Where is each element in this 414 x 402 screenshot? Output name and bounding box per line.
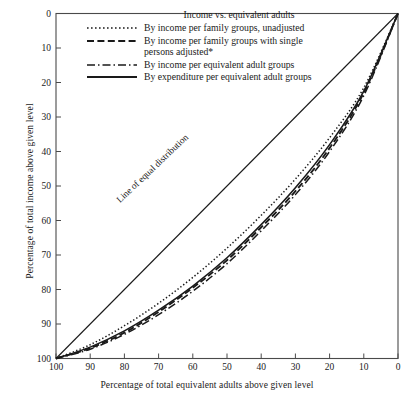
y-tick-label: 90 — [20, 319, 51, 329]
y-tick-label: 30 — [20, 112, 51, 122]
x-axis-ticks — [56, 354, 398, 359]
y-axis-ticks — [56, 14, 61, 359]
x-tick-label: 40 — [256, 362, 266, 372]
x-axis-title: Percentage of total equivalent adults ab… — [0, 380, 414, 390]
y-tick-label: 40 — [20, 147, 51, 157]
y-tick-label: 50 — [20, 181, 51, 191]
legend-item-income-equivalent-adult: By income per equivalent adult groups — [86, 59, 354, 71]
x-tick-label: 30 — [291, 362, 301, 372]
x-tick-label: 100 — [49, 362, 63, 372]
y-tick-label: 10 — [20, 43, 51, 53]
legend-swatch-dashed — [86, 35, 138, 46]
x-tick-label: 90 — [85, 362, 95, 372]
x-tick-label: 10 — [359, 362, 369, 372]
legend-swatch-dashdot — [86, 59, 138, 70]
legend-item-expenditure-equivalent-adult: By expenditure per equivalent adult grou… — [86, 71, 354, 83]
x-tick-label: 60 — [188, 362, 198, 372]
legend-label-income-equivalent-adult: By income per equivalent adult groups — [144, 59, 294, 71]
x-tick-label: 50 — [222, 362, 232, 372]
lorenz-curve-figure: Income vs. equivalent adults By income p… — [0, 0, 414, 402]
y-tick-label: 70 — [20, 250, 51, 260]
y-tick-label: 80 — [20, 285, 51, 295]
legend-item-income-family-single-adjusted: By income per family groups with single … — [86, 35, 354, 58]
legend-label-income-family-unadjusted: By income per family groups, unadjusted — [144, 22, 304, 34]
x-tick-label: 70 — [154, 362, 164, 372]
legend-title: Income vs. equivalent adults — [86, 9, 354, 20]
y-tick-label: 100 — [20, 354, 51, 364]
y-tick-label: 60 — [20, 216, 51, 226]
chart-legend: Income vs. equivalent adults By income p… — [86, 9, 354, 84]
legend-label-expenditure-equivalent-adult: By expenditure per equivalent adult grou… — [144, 71, 312, 83]
legend-label-income-family-single-adjusted: By income per family groups with single … — [144, 35, 303, 58]
x-tick-label: 20 — [325, 362, 335, 372]
y-axis-title: Percentage of total income above given l… — [25, 21, 35, 361]
legend-item-income-family-unadjusted: By income per family groups, unadjusted — [86, 22, 354, 34]
legend-swatch-dotted — [86, 22, 138, 33]
x-tick-label: 0 — [396, 362, 401, 372]
x-tick-label: 80 — [120, 362, 130, 372]
legend-swatch-solid — [86, 71, 138, 82]
y-tick-label: 0 — [20, 9, 51, 19]
y-tick-label: 20 — [20, 78, 51, 88]
